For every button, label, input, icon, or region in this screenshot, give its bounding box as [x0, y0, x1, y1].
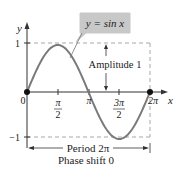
- function-label: y = sin x: [70, 13, 130, 58]
- function-label-text: y = sin x: [85, 17, 124, 29]
- axes: [27, 26, 164, 148]
- amplitude-annotation: Amplitude 1: [89, 44, 142, 91]
- x-tick-0: 0: [21, 95, 26, 106]
- y-tick-minus-1: −1: [9, 132, 20, 143]
- y-axis-label: y: [16, 22, 22, 34]
- x-tick-2pi: 2π: [148, 95, 159, 106]
- period-annotation: Period 2π Phase shift 0: [28, 142, 150, 166]
- svg-text:3π: 3π: [113, 97, 125, 108]
- sine-chart: y = sin x Amplitude 1 y x 1 −1 0 π 2 π 3…: [0, 0, 180, 174]
- x-tick-pi-over-2: π 2: [54, 97, 62, 120]
- x-axis-label: x: [167, 94, 173, 106]
- x-tick-3pi-over-2: 3π 2: [113, 97, 125, 120]
- svg-text:π: π: [55, 97, 61, 108]
- svg-text:2: 2: [56, 109, 61, 120]
- period-label: Period 2π: [67, 142, 110, 154]
- y-axis-arrow-icon: [25, 22, 30, 29]
- x-axis-arrow-icon: [161, 90, 168, 95]
- phase-shift-label: Phase shift 0: [58, 154, 115, 166]
- y-tick-1: 1: [15, 38, 20, 49]
- svg-text:2: 2: [117, 109, 122, 120]
- amplitude-label: Amplitude 1: [89, 59, 142, 70]
